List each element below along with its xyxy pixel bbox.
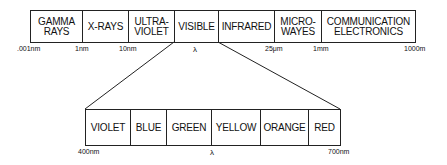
tick-label: 25μm [265,45,283,53]
band-microwaves: MICRO- WAYES [275,11,322,42]
band-red: RED [309,110,340,145]
band-communication-electronics: COMMUNICATION ELECTRONICS [322,11,415,42]
band-green: GREEN [167,110,212,145]
lambda-label: λ [210,149,214,157]
tick-label: 10nm [119,45,137,53]
tick-label: 400nm [78,148,99,156]
band-gamma-rays: GAMMA RAYS [31,11,83,42]
spectrum-bar: GAMMA RAYS X-RAYS ULTRA- VIOLET VISIBLE … [30,10,416,43]
lambda-label: λ [193,46,197,54]
band-orange: ORANGE [261,110,309,145]
band-blue: BLUE [131,110,167,145]
visible-spectrum-bar: VIOLET BLUE GREEN YELLOW ORANGE RED [85,109,341,146]
tick-label: 1nm [75,45,89,53]
tick-label: .001nm [17,45,40,53]
tick-label: 700nm [328,148,349,156]
tick-label: 1000m [404,45,425,53]
band-yellow: YELLOW [212,110,261,145]
band-ultraviolet: ULTRA- VIOLET [129,11,175,42]
band-violet: VIOLET [86,110,131,145]
tick-label: 1mm [313,45,329,53]
band-visible: VISIBLE [175,11,219,42]
band-x-rays: X-RAYS [83,11,129,42]
band-infrared: INFRARED [219,11,275,42]
